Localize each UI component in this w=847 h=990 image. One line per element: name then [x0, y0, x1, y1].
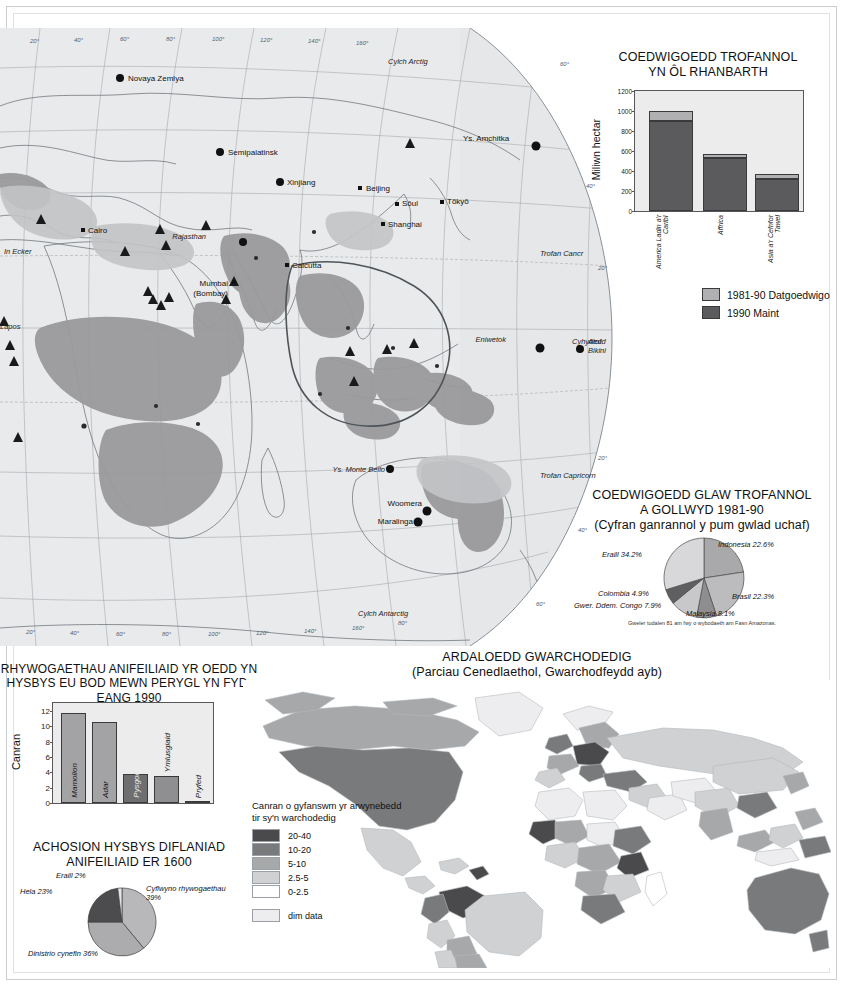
species-bar-label-pysgod: Pysgod	[131, 771, 140, 798]
svg-text:20°: 20°	[25, 629, 36, 635]
svg-text:In Ecker: In Ecker	[4, 247, 32, 256]
legend-swatch-10-20	[252, 843, 280, 856]
species-bar-label-adar: Adar	[100, 781, 109, 798]
legend-label-20-40: 20-40	[288, 831, 311, 841]
map-place: Ys. Monte Bello	[332, 465, 394, 474]
svg-text:120°: 120°	[260, 37, 273, 43]
forest-region-title: COEDWIGOEDD TROFANNOL YN ÔL RHANBARTH	[582, 50, 834, 80]
svg-text:Tōkyō: Tōkyō	[447, 197, 469, 206]
legend-row-10-20: 10-20	[252, 843, 402, 856]
species-bar-pysgod: Pysgod	[123, 774, 148, 803]
map-place: Maralinga	[378, 517, 423, 527]
svg-text:140°: 140°	[304, 628, 317, 634]
ytick: 12	[41, 706, 50, 715]
svg-text:Ys. Amchitka: Ys. Amchitka	[463, 134, 510, 143]
pie-label-eraill: Eraill 34.2%	[602, 550, 642, 559]
svg-text:120°: 120°	[256, 630, 269, 636]
svg-text:Calcutta: Calcutta	[292, 261, 322, 270]
svg-text:Shanghai: Shanghai	[388, 220, 422, 229]
extinction-label-dinistrio: Dinistrio cynefin 36%	[28, 950, 98, 959]
svg-text:80°: 80°	[166, 36, 176, 42]
svg-text:Lapos: Lapos	[0, 322, 21, 331]
ytick: 1000	[618, 108, 632, 115]
svg-text:100°: 100°	[208, 631, 221, 637]
svg-text:80°: 80°	[162, 631, 172, 637]
extinction-label-cyflwyno: Cyflwyno rhywogaethau 39%	[146, 885, 232, 902]
rainforest-lost-chart: COEDWIGOEDD GLAW TROFANNOL A GOLLWYD 198…	[566, 488, 838, 638]
pie-slice-hela	[88, 888, 122, 922]
ytick: 1200	[618, 88, 632, 95]
forest-region-legend: 1981-90 Datgoedwigo 1990 Maint	[702, 288, 830, 324]
world-map-tropical-forests[interactable]: 20°40° 60°80° 100°120° 140°160° 20°40° 6…	[0, 28, 640, 646]
svg-text:Eniwetok: Eniwetok	[476, 335, 508, 344]
legend-swatch-2_5-5	[252, 871, 280, 884]
legend-label-10-20: 10-20	[288, 845, 311, 855]
svg-text:Mumbai: Mumbai	[200, 279, 229, 288]
rainforest-lost-footnote: Gweler tudalen 81 am fwy o wybodaeth am …	[566, 620, 838, 626]
legend-label-remaining: 1990 Maint	[727, 307, 779, 319]
svg-text:60°: 60°	[560, 61, 570, 67]
svg-text:Novaya Zemlya: Novaya Zemlya	[128, 74, 184, 83]
species-bar-mamolion: Mamolion	[61, 713, 86, 803]
species-bar-ymlusgiaid: Ymlusgiaid	[154, 776, 179, 804]
svg-text:20°: 20°	[29, 38, 40, 44]
legend-swatch-0-2_5	[252, 885, 280, 898]
svg-text:Bikini: Bikini	[588, 346, 606, 355]
legend-label-2_5-5: 2.5-5	[288, 873, 309, 883]
bar-label-asia-pacific: Asia a'r Cefnfor Tawel	[767, 215, 782, 271]
legend-row-no-data: dim data	[252, 909, 402, 922]
svg-text:Beijing: Beijing	[366, 184, 390, 193]
svg-text:40°: 40°	[70, 630, 80, 636]
svg-text:60°: 60°	[536, 601, 546, 607]
species-at-risk-title: RHYWOGAETHAU ANIFEILIAID YR OEDD YN HYSB…	[0, 662, 262, 705]
svg-text:Cylch Arctig: Cylch Arctig	[388, 57, 429, 66]
svg-text:Sŏul: Sŏul	[402, 199, 418, 208]
svg-text:Trofan Capricorn: Trofan Capricorn	[540, 471, 596, 480]
svg-text:Atol: Atol	[587, 337, 601, 346]
species-bar-label-ymlusgiaid: Ymlusgiaid	[162, 733, 171, 772]
svg-text:160°: 160°	[352, 625, 365, 631]
svg-text:Maralinga: Maralinga	[378, 517, 414, 526]
bar-africa	[703, 154, 747, 212]
legend-item-remaining: 1990 Maint	[702, 306, 830, 319]
svg-text:Cairo: Cairo	[88, 226, 108, 235]
ytick: 0	[46, 799, 50, 808]
map-place: Shanghai	[381, 220, 422, 229]
legend-row-0-2_5: 0-2.5	[252, 885, 402, 898]
ytick: 0	[628, 208, 632, 215]
svg-text:140°: 140°	[308, 38, 321, 44]
map-place: Lapos	[0, 322, 21, 331]
pie-label-colombia: Colombia 4.9%	[598, 589, 649, 598]
bar-latin-america	[649, 111, 693, 212]
bar-asia-pacific	[755, 174, 799, 211]
extinction-causes-chart: ACHOSION HYSBYS DIFLANIAD ANIFEILIAID ER…	[0, 840, 260, 970]
rainforest-lost-title: COEDWIGOEDD GLAW TROFANNOL A GOLLWYD 198…	[566, 488, 838, 533]
svg-text:60°: 60°	[120, 36, 130, 42]
pie-label-congo: Gwer. Ddem. Congo 7.9%	[574, 601, 661, 610]
svg-text:Cylch Antarctig: Cylch Antarctig	[358, 609, 409, 618]
legend-swatch-5-10	[252, 857, 280, 870]
legend-swatch-deforested	[702, 288, 720, 301]
protected-areas-map[interactable]: ARDALOEDD GWARCHODEDIG (Parciau Cenedlae…	[243, 650, 831, 968]
extinction-label-eraill: Eraill 2%	[56, 872, 86, 881]
svg-text:Ys. Monte Bello: Ys. Monte Bello	[332, 465, 385, 474]
svg-text:(Bombay): (Bombay)	[193, 289, 228, 298]
legend-row-20-40: 20-40	[252, 829, 402, 842]
svg-text:Trofan Cancr: Trofan Cancr	[540, 249, 584, 258]
tropical-forest-region-chart: COEDWIGOEDD TROFANNOL YN ÔL RHANBARTH Mi…	[582, 50, 834, 330]
species-plot-area: 0 2 4 6 8 10 12 Mamolion Adar Pysgod Yml…	[52, 702, 214, 804]
ytick: 10	[41, 722, 50, 731]
pie-label-brasil: Brasil 22.3%	[732, 592, 774, 601]
forest-region-y-axis-label: Miliwn hectar	[590, 90, 602, 210]
ytick: 6	[46, 752, 50, 761]
svg-text:20°: 20°	[597, 455, 608, 461]
svg-text:40°: 40°	[74, 37, 84, 43]
species-y-axis-label: Canran	[10, 702, 22, 802]
svg-text:60°: 60°	[116, 631, 126, 637]
svg-text:Semipalatinsk: Semipalatinsk	[228, 148, 279, 157]
species-at-risk-chart: RHYWOGAETHAU ANIFEILIAID YR OEDD YN HYSB…	[0, 662, 262, 822]
bar-label-africa: Affrica	[717, 215, 724, 249]
forest-region-plot-area: 0 200 400 600 800 1000 1200 America Ladi…	[634, 90, 804, 212]
svg-text:80°: 80°	[398, 620, 408, 626]
extinction-causes-title: ACHOSION HYSBYS DIFLANIAD ANIFEILIAID ER…	[0, 840, 260, 870]
